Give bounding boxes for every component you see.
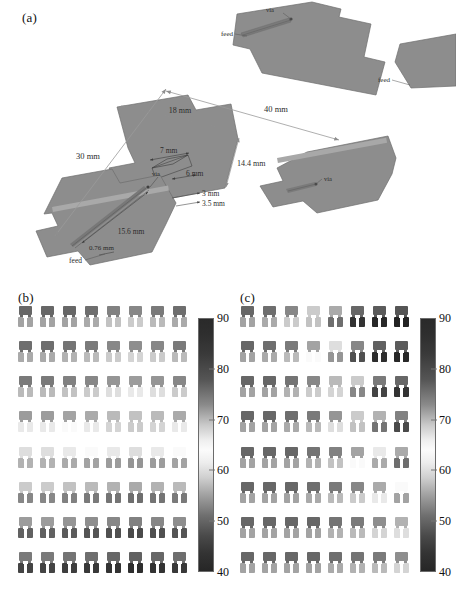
heatmap-cell [80,512,102,547]
center-slot [112,422,115,432]
arm-right [71,528,77,538]
antenna-element-pattern [148,306,167,330]
arm-right [381,528,387,538]
antenna-element-pattern [16,411,35,435]
center-slot [112,528,115,538]
antenna-element-pattern [170,482,189,506]
center-slot [246,387,249,397]
heatmap-cell [36,547,58,582]
feed-notch [245,526,250,529]
arm-right [71,458,77,468]
center-slot [312,422,315,432]
feed-notch [399,350,404,353]
heatmap-cell [346,406,368,441]
center-slot [68,352,71,362]
antenna-element-pattern [148,411,167,435]
center-slot [268,422,271,432]
center-slot [178,528,181,538]
heatmap-cell [258,371,280,406]
arm-right [337,352,343,362]
heatmap-cell [58,441,80,476]
heatmap-cell [146,476,168,511]
antenna-element-pattern [126,411,145,435]
arm-right [71,563,77,573]
antenna-element-pattern [60,447,79,471]
heatmap-cell [390,512,412,547]
heatmap-cell [258,512,280,547]
antenna-element-pattern [326,447,345,471]
arm-right [49,458,55,468]
heatmap-cell [368,547,390,582]
heatmap-cell [390,300,412,335]
center-slot [178,317,181,327]
heatmap-cell [14,441,36,476]
antenna-element-pattern [370,552,389,576]
arm-right [93,528,99,538]
arm-right [137,563,143,573]
antenna-element-pattern [304,552,323,576]
heatmap-cell [168,547,190,582]
heatmap-cell [346,300,368,335]
heatmap-cell [58,300,80,335]
antenna-element-pattern [104,482,123,506]
center-slot [178,422,181,432]
feed-notch [377,491,382,494]
center-slot [268,563,271,573]
feed-notch [333,420,338,423]
arm-right [381,422,387,432]
feed-notch [89,456,94,459]
feed-notch [133,420,138,423]
panel-a: (a) [0,0,456,288]
arm-right [315,422,321,432]
colorbar-b-gradient [198,318,214,572]
feed-notch [67,350,72,353]
feed-notch [23,385,28,388]
feed-notch [333,561,338,564]
antenna-element-pattern [170,306,189,330]
arm-right [315,458,321,468]
center-slot [24,493,27,503]
antenna-element-pattern [60,376,79,400]
antenna-element-pattern [282,482,301,506]
heatmap-cell [146,371,168,406]
feed-notch [399,526,404,529]
feed-notch [311,315,316,318]
feed-notch [89,526,94,529]
antenna-element-pattern [326,306,345,330]
arm-right [271,528,277,538]
feed-notch [333,315,338,318]
feed-notch [23,456,28,459]
antenna-element-pattern [170,376,189,400]
antenna-element-pattern [16,552,35,576]
center-slot [68,528,71,538]
center-slot [268,493,271,503]
antenna-element-pattern [60,411,79,435]
heatmap-cell [346,335,368,370]
center-slot [268,352,271,362]
antenna-element-pattern [16,482,35,506]
heatmap-cell [102,300,124,335]
arm-right [115,317,121,327]
heatmap-cell [324,547,346,582]
center-slot [246,563,249,573]
heatmap-cell [146,300,168,335]
center-slot [378,528,381,538]
arm-right [249,458,255,468]
heatmap-cell [346,371,368,406]
antenna-element-pattern [38,447,57,471]
heatmap-cell [102,406,124,441]
antenna-element-pattern [126,517,145,541]
heatmap-cell [236,371,258,406]
arm-right [93,458,99,468]
heatmap-cell [280,476,302,511]
antenna-element-pattern [348,447,367,471]
feed-notch [177,315,182,318]
center-slot [46,317,49,327]
antenna-element-pattern [170,552,189,576]
antenna-element-pattern [238,376,257,400]
arm-right [115,528,121,538]
arm-right [293,352,299,362]
feed-notch [45,420,50,423]
antenna-element-pattern [282,341,301,365]
center-slot [290,387,293,397]
